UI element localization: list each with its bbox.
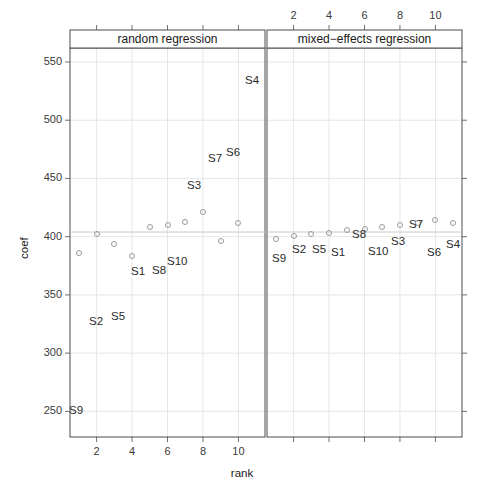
y-tick-label: 350 (44, 288, 62, 300)
point-label: S3 (187, 179, 201, 191)
x-axis-title: rank (0, 467, 484, 479)
point-label: S1 (331, 246, 345, 258)
point-label: S7 (409, 218, 423, 230)
data-point (111, 241, 117, 247)
data-point (182, 219, 188, 225)
data-point (165, 222, 171, 228)
axis-ticks (65, 25, 467, 442)
x-tick-label-bottom: 4 (123, 445, 141, 457)
data-point (344, 227, 350, 233)
point-label: S4 (245, 74, 259, 86)
y-axis-title: coef (18, 237, 30, 259)
data-point (291, 233, 297, 239)
point-label: S6 (226, 146, 240, 158)
point-label: S2 (89, 315, 103, 327)
point-label: S2 (292, 243, 306, 255)
point-label: S9 (69, 404, 83, 416)
y-tick-label: 300 (44, 346, 62, 358)
point-label: S8 (352, 228, 366, 240)
point-label: S10 (368, 245, 388, 257)
point-label: S4 (446, 238, 460, 250)
point-label: S10 (167, 255, 187, 267)
x-tick-label-top: 10 (426, 9, 444, 21)
y-tick-label: 550 (44, 55, 62, 67)
strip-label-mixed-effects-regression: mixed−effects regression (267, 32, 462, 46)
data-point (94, 231, 100, 237)
y-tick-label: 250 (44, 404, 62, 416)
data-point (450, 220, 456, 226)
point-label: S3 (391, 235, 405, 247)
dotplot-figure: 550500450400350300250 246810 246810 rand… (0, 0, 484, 493)
y-tick-label: 500 (44, 113, 62, 125)
x-tick-label-bottom: 6 (159, 445, 177, 457)
point-label: S6 (427, 246, 441, 258)
data-point (273, 236, 279, 242)
y-tick-label: 450 (44, 171, 62, 183)
point-label: S5 (111, 310, 125, 322)
x-tick-label-top: 4 (320, 9, 338, 21)
y-tick-label: 400 (44, 230, 62, 242)
point-label: S9 (272, 252, 286, 264)
point-label: S8 (152, 264, 166, 276)
x-tick-label-top: 6 (356, 9, 374, 21)
x-tick-label-bottom: 10 (229, 445, 247, 457)
strip-label-random-regression: random regression (70, 32, 265, 46)
panel-frames (70, 30, 462, 437)
x-tick-label-top: 2 (285, 9, 303, 21)
point-label: S5 (312, 243, 326, 255)
plot-canvas (0, 0, 484, 493)
x-tick-label-bottom: 8 (194, 445, 212, 457)
data-point (76, 250, 82, 256)
data-point (397, 222, 403, 228)
point-label: S7 (208, 152, 222, 164)
data-point (218, 238, 224, 244)
x-tick-label-top: 8 (391, 9, 409, 21)
point-label: S1 (131, 265, 145, 277)
x-tick-label-bottom: 2 (88, 445, 106, 457)
